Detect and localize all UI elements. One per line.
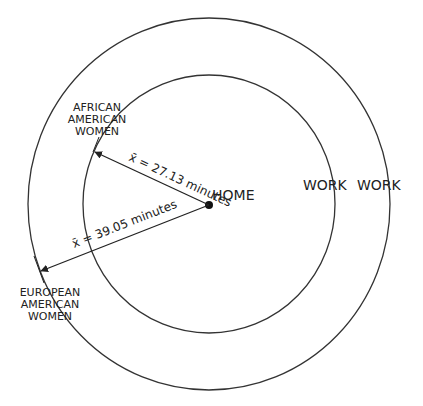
commute-distance-diagram: x̄ = 27.13 minutes x̄ = 39.05 minutes HO… xyxy=(0,0,423,406)
outer-radius-arrow xyxy=(41,205,209,271)
inner-group-label-line3: WOMEN xyxy=(75,125,119,138)
work-label-inner: WORK xyxy=(303,177,348,193)
inner-label-leader xyxy=(93,137,99,152)
home-label: HOME xyxy=(212,187,254,203)
outer-group-label-line3: WOMEN xyxy=(28,310,72,323)
outer-label-leader xyxy=(34,256,44,283)
work-label-outer: WORK xyxy=(357,177,402,193)
